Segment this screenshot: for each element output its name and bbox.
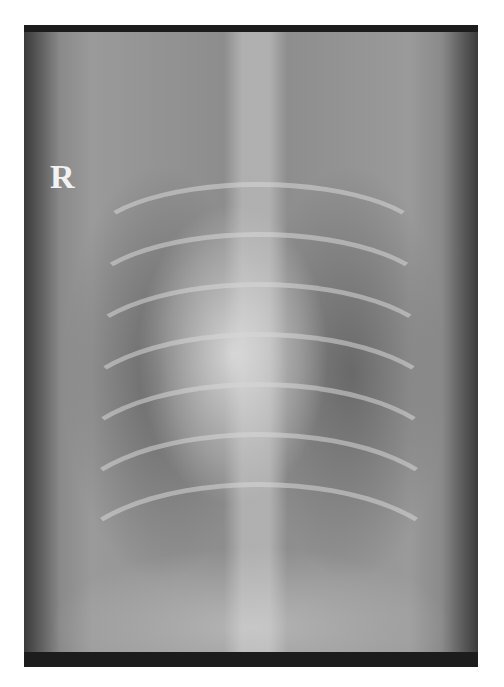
radiograph-frame: R — [24, 25, 478, 667]
rib-shadow — [64, 482, 454, 652]
side-marker: R — [50, 158, 75, 196]
thoracic-radiograph — [24, 32, 478, 652]
